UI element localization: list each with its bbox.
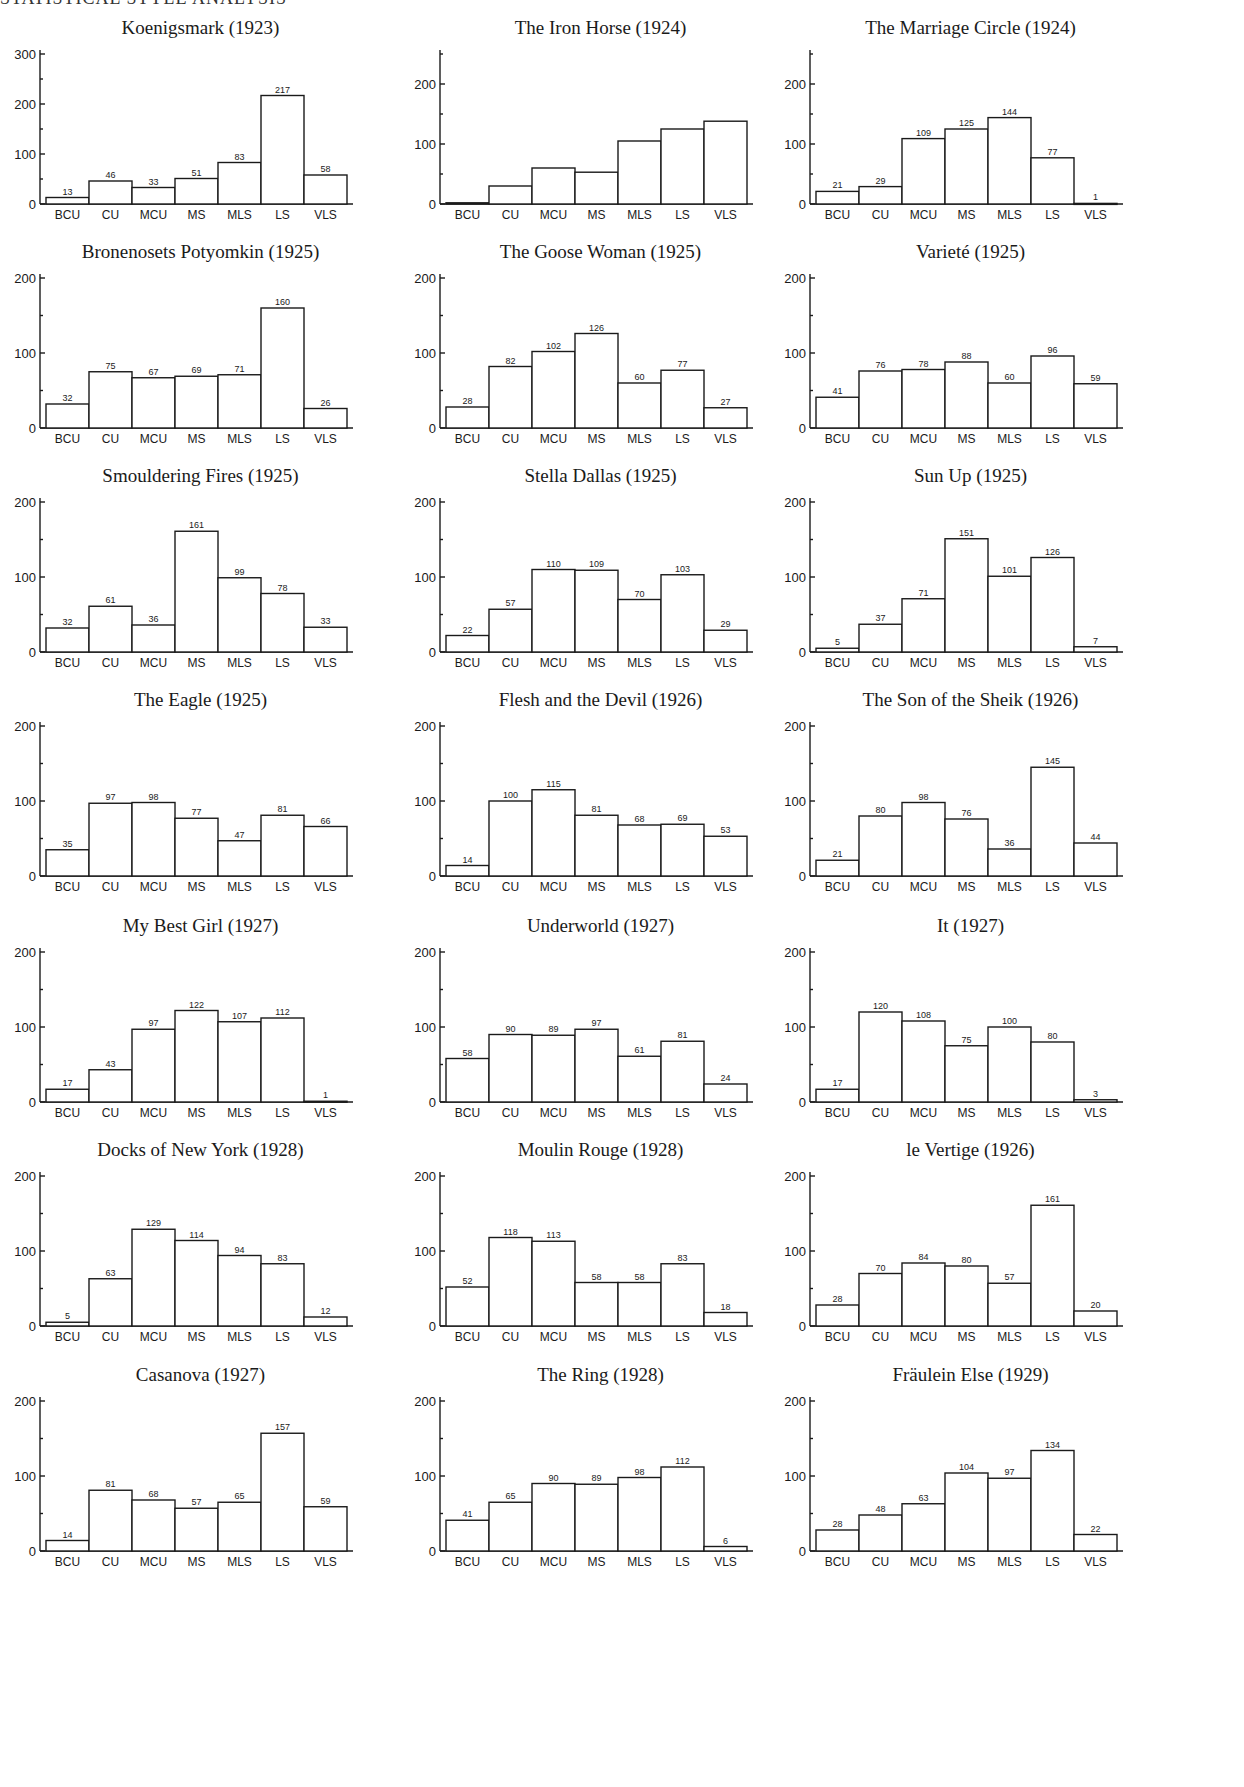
data-label: 44 [1090, 832, 1100, 842]
x-tick-label: LS [275, 656, 290, 670]
data-label: 81 [677, 1030, 687, 1040]
x-tick-label: BCU [825, 656, 850, 670]
bar-ls [261, 1018, 304, 1102]
y-tick-label: 0 [429, 645, 436, 660]
y-tick-label: 100 [14, 794, 36, 809]
x-tick-label: CU [502, 432, 519, 446]
x-tick-label: MS [188, 1330, 206, 1344]
bar-mcu [902, 803, 945, 877]
x-tick-label: VLS [1084, 1106, 1107, 1120]
x-tick-label: VLS [314, 656, 337, 670]
bar-cu [89, 181, 132, 204]
x-tick-label: LS [275, 432, 290, 446]
chart-panel: Flesh and the Devil (1926)010020014BCU10… [400, 680, 810, 936]
x-tick-label: LS [675, 1555, 690, 1569]
bar-chart: Fräulein Else (1929)010020028BCU48CU63MC… [770, 1355, 1180, 1585]
chart-panel: Casanova (1927)010020014BCU81CU68MCU57MS… [0, 1355, 410, 1611]
data-label: 35 [62, 839, 72, 849]
data-label: 97 [148, 1018, 158, 1028]
y-tick-label: 100 [14, 570, 36, 585]
data-label: 28 [462, 396, 472, 406]
y-tick-label: 100 [784, 1469, 806, 1484]
data-label: 88 [961, 351, 971, 361]
bar-ls [261, 1264, 304, 1326]
chart-panel: Underworld (1927)010020058BCU90CU89MCU97… [400, 906, 810, 1162]
data-label: 58 [591, 1272, 601, 1282]
chart-title: It (1927) [937, 915, 1004, 937]
x-tick-label: LS [275, 1106, 290, 1120]
x-tick-label: MLS [227, 1330, 252, 1344]
data-label: 129 [146, 1218, 161, 1228]
bar-mcu [132, 188, 175, 205]
data-label: 83 [234, 152, 244, 162]
y-tick-label: 0 [29, 645, 36, 660]
x-tick-label: LS [675, 208, 690, 222]
x-tick-label: MCU [910, 656, 937, 670]
data-label: 65 [505, 1491, 515, 1501]
x-tick-label: MCU [140, 880, 167, 894]
data-label: 76 [961, 808, 971, 818]
data-label: 100 [1002, 1016, 1017, 1026]
bar-chart: The Iron Horse (1924)0100200BCUCUMCUMSML… [400, 8, 810, 238]
bar-vls [1074, 843, 1117, 876]
bar-ls [1031, 356, 1074, 428]
bar-chart: The Eagle (1925)010020035BCU97CU98MCU77M… [0, 680, 410, 910]
y-tick-label: 0 [799, 1544, 806, 1559]
bar-chart: The Marriage Circle (1924)010020021BCU29… [770, 8, 1180, 238]
x-tick-label: MLS [997, 1106, 1022, 1120]
bar-bcu [46, 850, 89, 876]
x-tick-label: MS [588, 880, 606, 894]
bar-bcu [446, 1520, 489, 1551]
x-tick-label: CU [502, 656, 519, 670]
bar-vls [1074, 647, 1117, 652]
data-label: 80 [1047, 1031, 1057, 1041]
chart-panel: le Vertige (1926)010020028BCU70CU84MCU80… [770, 1130, 1180, 1386]
x-tick-label: CU [102, 656, 119, 670]
data-label: 57 [1004, 1272, 1014, 1282]
bar-ms [575, 815, 618, 876]
data-label: 145 [1045, 756, 1060, 766]
x-tick-label: CU [872, 208, 889, 222]
x-tick-label: BCU [55, 1330, 80, 1344]
y-tick-label: 200 [414, 495, 436, 510]
x-tick-label: MLS [997, 656, 1022, 670]
x-tick-label: MLS [997, 1555, 1022, 1569]
data-label: 81 [277, 804, 287, 814]
bar-cu [89, 803, 132, 876]
bar-vls [304, 175, 347, 204]
x-tick-label: MS [958, 1555, 976, 1569]
bar-ls [1031, 158, 1074, 204]
bar-vls [1074, 203, 1117, 204]
data-label: 48 [875, 1504, 885, 1514]
y-tick-label: 0 [29, 869, 36, 884]
bar-cu [489, 1238, 532, 1327]
x-tick-label: MCU [910, 1555, 937, 1569]
y-tick-label: 100 [414, 794, 436, 809]
y-tick-label: 200 [784, 495, 806, 510]
data-label: 17 [62, 1078, 72, 1088]
bar-ms [945, 129, 988, 204]
x-tick-label: CU [102, 208, 119, 222]
y-tick-label: 0 [29, 1095, 36, 1110]
x-tick-label: BCU [455, 1330, 480, 1344]
data-label: 36 [148, 614, 158, 624]
chart-panel: Fräulein Else (1929)010020028BCU48CU63MC… [770, 1355, 1180, 1611]
chart-title: Koenigsmark (1923) [122, 17, 280, 39]
y-tick-label: 300 [14, 47, 36, 62]
data-label: 65 [234, 1491, 244, 1501]
x-tick-label: VLS [1084, 432, 1107, 446]
data-label: 21 [832, 180, 842, 190]
y-tick-label: 200 [784, 77, 806, 92]
data-label: 71 [918, 588, 928, 598]
bar-mls [618, 1056, 661, 1102]
data-label: 81 [105, 1479, 115, 1489]
chart-title: Sun Up (1925) [914, 465, 1027, 487]
data-label: 60 [1004, 372, 1014, 382]
x-tick-label: VLS [714, 208, 737, 222]
x-tick-label: VLS [314, 1555, 337, 1569]
data-label: 99 [234, 567, 244, 577]
bar-bcu [816, 860, 859, 876]
y-tick-label: 0 [29, 1319, 36, 1334]
data-label: 21 [832, 849, 842, 859]
x-tick-label: CU [502, 208, 519, 222]
